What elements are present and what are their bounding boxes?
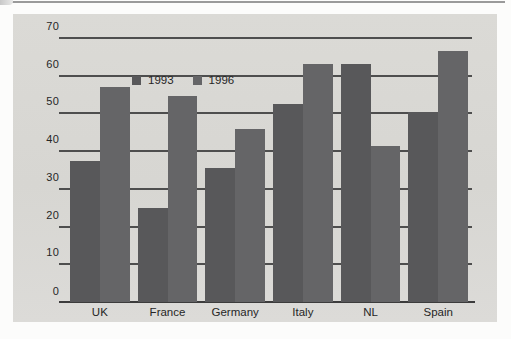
- legend-item-1996: 1996: [193, 74, 235, 86]
- x-tick-label-france: France: [134, 306, 202, 318]
- bar-germany-1996: [235, 129, 265, 302]
- y-tick-label-40: 40: [13, 133, 59, 145]
- bar-italy-1996: [303, 64, 333, 302]
- bar-chart-panel: 010203040506070 19931996 UKFranceGermany…: [13, 14, 497, 322]
- bar-spain-1993: [408, 112, 438, 302]
- x-tick-label-uk: UK: [66, 306, 134, 318]
- y-tick-label-70: 70: [13, 20, 59, 32]
- bar-nl-1993: [341, 64, 371, 302]
- x-tick-label-spain: Spain: [404, 306, 472, 318]
- plot-area: 19931996: [66, 38, 472, 302]
- legend-item-1993: 1993: [132, 74, 174, 86]
- bar-uk-1993: [70, 161, 100, 302]
- x-tick-label-germany: Germany: [201, 306, 269, 318]
- x-tick-label-nl: NL: [337, 306, 405, 318]
- chart-legend: 19931996: [132, 74, 234, 86]
- y-tick-label-10: 10: [13, 246, 59, 258]
- bar-italy-1993: [273, 104, 303, 302]
- bar-groups: [66, 38, 472, 302]
- y-tick-label-30: 30: [13, 171, 59, 183]
- legend-label-1996: 1996: [209, 74, 235, 86]
- bar-group-italy: [269, 38, 337, 302]
- bar-nl-1996: [371, 146, 401, 303]
- page-top-rule: [9, 1, 505, 3]
- x-tick-label-italy: Italy: [269, 306, 337, 318]
- bar-spain-1996: [438, 51, 468, 302]
- bar-group-spain: [404, 38, 472, 302]
- y-tick-label-50: 50: [13, 95, 59, 107]
- y-tick-label-20: 20: [13, 209, 59, 221]
- bar-group-uk: [66, 38, 134, 302]
- y-axis-tick-labels: 010203040506070: [13, 38, 59, 302]
- bar-germany-1993: [205, 168, 235, 302]
- bar-group-nl: [337, 38, 405, 302]
- legend-swatch-1993: [132, 76, 141, 85]
- bar-france-1993: [138, 208, 168, 302]
- legend-label-1993: 1993: [148, 74, 174, 86]
- y-tick-label-0: 0: [13, 285, 59, 297]
- legend-swatch-1996: [193, 76, 202, 85]
- bar-france-1996: [168, 96, 198, 302]
- x-axis-tick-labels: UKFranceGermanyItalyNLSpain: [66, 306, 472, 318]
- y-tick-label-60: 60: [13, 58, 59, 70]
- scan-corner-artifact: [0, 0, 13, 5]
- bar-uk-1996: [100, 87, 130, 302]
